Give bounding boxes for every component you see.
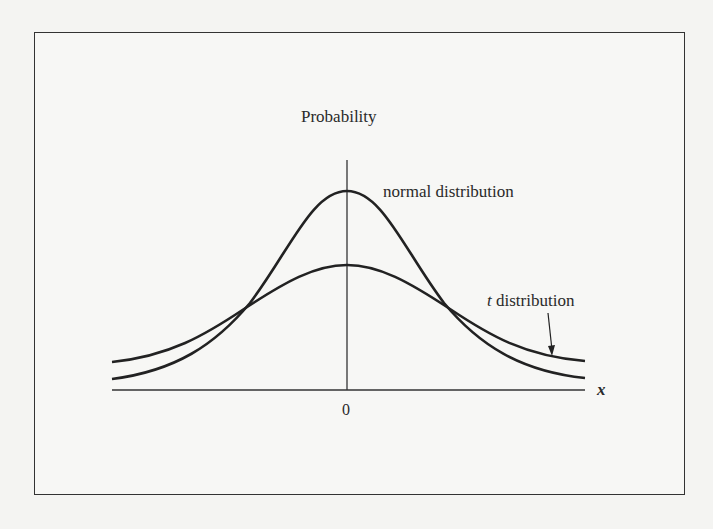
normal-curve-label: normal distribution bbox=[383, 182, 514, 201]
normal-curve bbox=[112, 191, 585, 379]
distribution-diagram: Probability normal distribution t distri… bbox=[0, 0, 713, 529]
t-arrow-line bbox=[548, 313, 552, 350]
y-axis-label: Probability bbox=[301, 107, 377, 126]
t-curve bbox=[112, 265, 585, 362]
x-tick-zero: 0 bbox=[342, 401, 350, 418]
t-curve-label: t distribution bbox=[487, 291, 575, 310]
x-axis-label: x bbox=[596, 380, 606, 399]
